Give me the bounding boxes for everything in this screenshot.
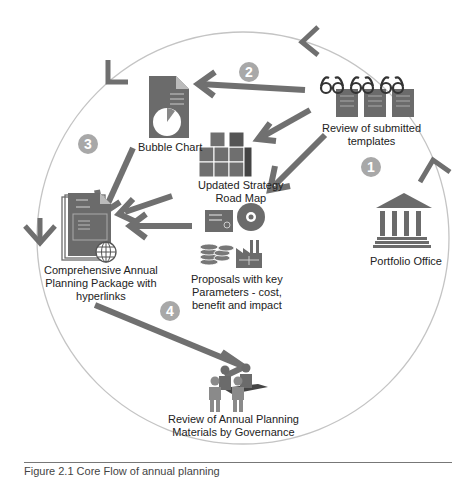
circle-chevron-left-icon bbox=[25, 218, 55, 243]
governance-label: Review of Annual Planning Materials by G… bbox=[168, 413, 299, 439]
certificate-disc-coins-factory-icon bbox=[200, 203, 265, 268]
circle-chevron-top-left-icon bbox=[108, 60, 128, 82]
step-badge-1: 1 bbox=[361, 157, 381, 177]
svg-text:1: 1 bbox=[367, 159, 375, 175]
circle-chevron-top-icon bbox=[302, 27, 318, 55]
pie-chart-document-icon bbox=[149, 76, 189, 138]
portfolio-office-label: Portfolio Office bbox=[370, 255, 442, 268]
proposals-label: Proposals with key Parameters - cost, be… bbox=[191, 273, 283, 312]
binoculars-documents-icon bbox=[321, 77, 414, 117]
stacked-blocks-icon bbox=[199, 132, 252, 177]
bubble-chart-label: Bubble Chart bbox=[138, 141, 202, 154]
svg-text:4: 4 bbox=[166, 303, 174, 319]
road-map-label: Updated Strategy Road Map bbox=[198, 179, 284, 205]
documents-globe-icon bbox=[62, 193, 116, 262]
svg-text:2: 2 bbox=[245, 64, 253, 80]
step-badge-3: 3 bbox=[78, 134, 98, 154]
caption-rule bbox=[24, 462, 452, 463]
review-templates-label: Review of submitted templates bbox=[322, 122, 421, 148]
svg-text:3: 3 bbox=[84, 136, 92, 152]
step-badge-2: 2 bbox=[239, 62, 259, 82]
step-badge-4: 4 bbox=[160, 301, 180, 321]
building-columns-icon bbox=[373, 193, 432, 248]
figure-caption: Figure 2.1 Core Flow of annual planning bbox=[24, 465, 220, 477]
circle-chevron-right-icon bbox=[420, 160, 450, 182]
package-label: Comprehensive Annual Planning Package wi… bbox=[44, 264, 158, 303]
